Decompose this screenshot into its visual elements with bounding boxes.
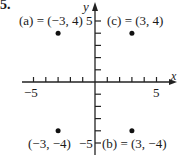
point-label-d: (−3, −4)	[28, 137, 71, 150]
y-tick-label-max: 5	[86, 14, 93, 27]
x-tick-label-max: 5	[153, 86, 160, 99]
point-label-a: (a) = (−3, 4)	[19, 14, 83, 27]
point-label-b: (b) = (3, −4)	[102, 137, 166, 150]
data-point	[56, 31, 61, 36]
y-axis-label: y	[83, 0, 89, 13]
data-point	[129, 128, 134, 133]
point-label-c: (c) = (3, 4)	[107, 14, 163, 27]
data-point	[56, 128, 61, 133]
y-axis-arrow-icon	[92, 2, 98, 11]
data-point	[129, 31, 134, 36]
x-axis-label: x	[171, 70, 176, 82]
y-tick-label-min: −5	[79, 137, 93, 150]
x-tick-label-min: −5	[24, 86, 38, 99]
